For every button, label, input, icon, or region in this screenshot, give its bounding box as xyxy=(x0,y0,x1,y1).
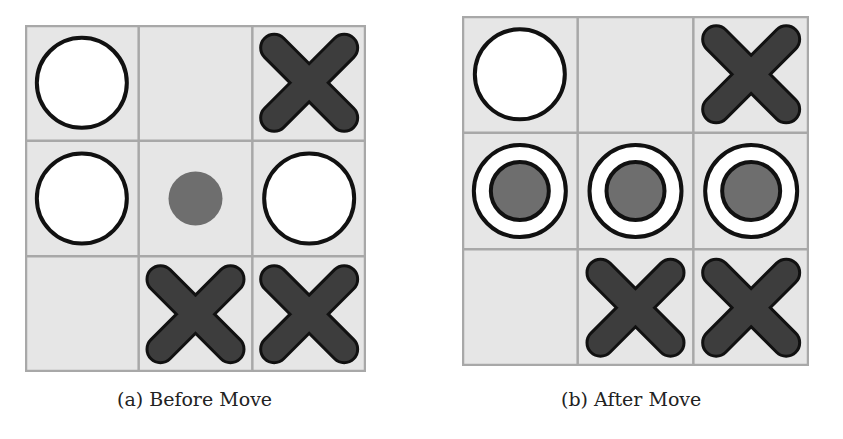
o-mark-icon xyxy=(37,38,127,128)
o-mark-icon xyxy=(37,154,127,244)
o-win-mark-icon xyxy=(590,145,682,237)
board-before xyxy=(25,25,366,372)
board-after xyxy=(462,16,809,366)
caption-before: (a) Before Move xyxy=(117,388,272,410)
o-win-mark-icon xyxy=(705,145,797,237)
caption-after: (b) After Move xyxy=(561,388,701,410)
o-mark-icon xyxy=(264,154,354,244)
move-dot-icon xyxy=(169,172,223,226)
o-mark-icon xyxy=(475,29,565,119)
o-win-mark-icon xyxy=(474,145,566,237)
